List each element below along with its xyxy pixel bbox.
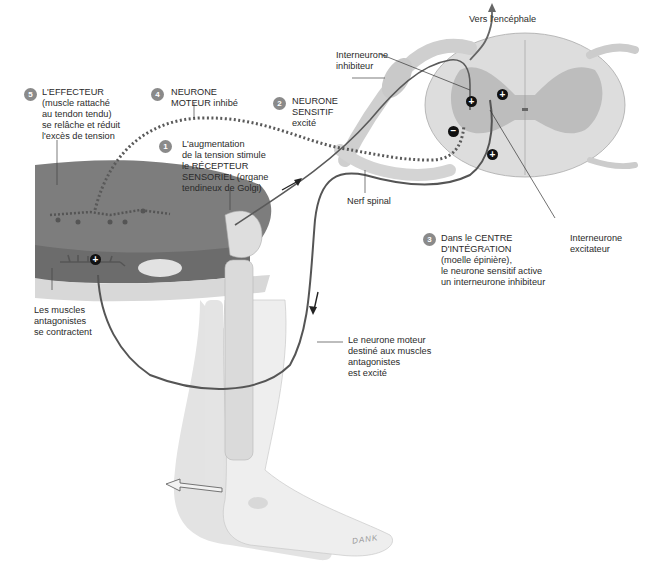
label-muscles-antagonistes: Les muscles antagonistes se contractent	[34, 305, 92, 338]
label-interneurone-excitateur: Interneurone excitateur	[570, 233, 622, 255]
label-centre-integration: Dans le CENTRE D'INTÉGRATION (moelle épi…	[441, 233, 545, 288]
minus-sign: −	[448, 126, 459, 137]
label-neurone-moteur: NEURONE MOTEUR inhibé	[171, 87, 238, 109]
label-neurone-moteur-antagonistes: Le neurone moteur destiné aux muscles an…	[348, 335, 431, 379]
plus-sign-3: +	[487, 149, 498, 160]
label-vers-encephale: Vers l'encéphale	[469, 14, 536, 25]
label-neurone-sensitif: NEURONE SENSITIF excité	[292, 96, 338, 129]
label-effecteur: L'EFFECTEUR (muscle rattaché au tendon t…	[42, 87, 120, 142]
plus-sign-2: +	[497, 89, 508, 100]
spinal-cord	[425, 33, 635, 177]
step-badge-3: 3	[423, 233, 436, 246]
step-badge-4: 4	[151, 88, 164, 101]
label-recepteur: L'augmentation de la tension stimule le …	[182, 139, 268, 194]
plus-sign-muscle: +	[90, 254, 101, 265]
step-badge-1: 1	[159, 140, 172, 153]
label-nerf-spinal: Nerf spinal	[347, 196, 391, 207]
label-interneurone-inhibiteur: Interneurone inhibiteur	[336, 50, 388, 72]
leg-illustration	[35, 160, 393, 560]
step-badge-2: 2	[273, 97, 286, 110]
plus-sign-1: +	[466, 96, 477, 107]
step-badge-5: 5	[24, 88, 37, 101]
